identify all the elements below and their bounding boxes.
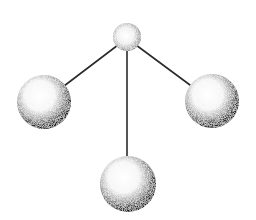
atom-left-sphere <box>17 75 71 129</box>
bond-central-right <box>136 45 190 85</box>
atom-central-sphere <box>113 23 141 51</box>
bonds-group <box>64 45 190 157</box>
bond-central-left <box>64 45 118 86</box>
atoms-group <box>17 23 239 212</box>
atom-right-sphere <box>185 74 239 128</box>
atom-bottom-sphere <box>100 156 156 212</box>
molecule-canvas <box>0 0 256 220</box>
molecule-diagram <box>0 0 256 220</box>
